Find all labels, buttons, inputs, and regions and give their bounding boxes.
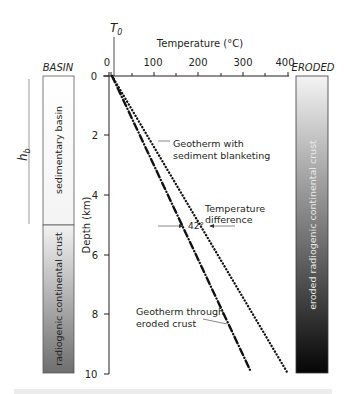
depth-tick-0: 0 [91, 71, 97, 82]
temp-tick-100: 100 [143, 57, 162, 68]
eroded-crust-label: eroded radiogenic continental crust [307, 140, 318, 310]
radiogenic-crust-label: radiogenic continental crust [53, 232, 64, 366]
temp-tick-400: 400 [275, 57, 294, 68]
sediment-geotherm-label-2: sediment blanketing [173, 150, 270, 161]
temp-tick-300: 300 [233, 57, 252, 68]
basin-title: BASIN [43, 62, 74, 73]
temp-difference-label-1: Temperature [204, 203, 265, 214]
temperature-axis [103, 72, 289, 76]
temperature-axis-label: Temperature (°C) [156, 38, 243, 49]
sedimentary-basin-label: sedimentary basin [53, 106, 64, 194]
bottom-band [14, 389, 332, 394]
depth-tick-4: 4 [92, 190, 98, 201]
depth-tick-10: 10 [85, 369, 98, 380]
depth-tick-6: 6 [92, 250, 98, 261]
eroded-geotherm-label-2: eroded crust [136, 318, 196, 329]
depth-axis [104, 72, 109, 374]
t0-label: T0 [110, 21, 122, 37]
temp-tick-200: 200 [188, 57, 207, 68]
temp-tick-0: 0 [104, 57, 110, 68]
eroded-geotherm-label-1: Geotherm through [136, 306, 224, 317]
depth-tick-8: 8 [92, 309, 98, 320]
temp-difference-value: 42° [188, 221, 204, 231]
eroded-title: ERODED [292, 62, 335, 73]
eroded-geotherm-leader [203, 319, 227, 324]
sediment-geotherm-label-1: Geotherm with [173, 138, 244, 149]
depth-tick-2: 2 [92, 130, 98, 141]
geotherm-diagram: hb BASIN sedimentary basin radiogenic co… [0, 0, 344, 394]
hb-label: hb [16, 148, 32, 161]
depth-axis-label: Depth (km) [81, 196, 92, 253]
temp-difference-label-2: difference [205, 214, 253, 225]
